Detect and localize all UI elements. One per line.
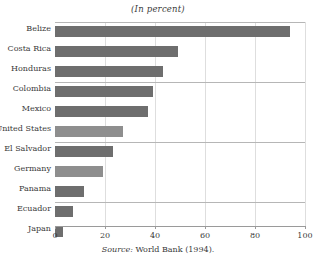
tick-mark-20: [105, 226, 106, 229]
bar-ecuador: [55, 206, 73, 217]
bar-united-states: [55, 126, 123, 137]
bar-el-salvador: [55, 146, 113, 157]
tick-label-80: 80: [250, 231, 260, 240]
tick-mark-60: [205, 226, 206, 229]
bar-row: Belize: [55, 22, 305, 42]
tick-label-0: 0: [52, 231, 57, 240]
bar-germany: [55, 166, 103, 177]
bar-row: Ecuador: [55, 202, 305, 222]
tick-label-100: 100: [297, 231, 312, 240]
bar-colombia: [55, 86, 153, 97]
category-label-honduras: Honduras: [11, 64, 51, 73]
tick-label-40: 40: [150, 231, 160, 240]
source-note: Source: World Bank (1994).: [0, 245, 316, 254]
bar-row: El Salvador: [55, 142, 305, 162]
plot-area: BelizeCosta RicaHondurasColombiaMexicoUn…: [55, 22, 305, 226]
bar-row: Germany: [55, 162, 305, 182]
chart-title: (In percent): [0, 4, 316, 14]
x-axis-line: [55, 226, 305, 227]
category-label-belize: Belize: [26, 24, 51, 33]
category-label-germany: Germany: [14, 164, 51, 173]
bar-row: Honduras: [55, 62, 305, 82]
tick-mark-80: [255, 226, 256, 229]
bar-row: Mexico: [55, 102, 305, 122]
category-label-united-states: United States: [0, 124, 51, 133]
tick-mark-40: [155, 226, 156, 229]
bar-costa-rica: [55, 46, 178, 57]
category-label-japan: Japan: [28, 224, 51, 233]
category-label-costa-rica: Costa Rica: [8, 44, 51, 53]
bar-honduras: [55, 66, 163, 77]
chart-figure: (In percent) BelizeCosta RicaHondurasCol…: [0, 0, 316, 262]
tick-label-60: 60: [200, 231, 210, 240]
gridline-100: [305, 22, 306, 226]
bar-row: Colombia: [55, 82, 305, 102]
category-label-mexico: Mexico: [22, 104, 51, 113]
bar-row: Panama: [55, 182, 305, 202]
bar-row: Costa Rica: [55, 42, 305, 62]
tick-mark-100: [305, 226, 306, 229]
category-label-el-salvador: El Salvador: [4, 144, 51, 153]
source-text: World Bank (1994).: [133, 245, 214, 254]
source-prefix: Source:: [102, 245, 133, 254]
bar-row: United States: [55, 122, 305, 142]
category-label-ecuador: Ecuador: [17, 204, 51, 213]
tick-label-20: 20: [100, 231, 110, 240]
bar-panama: [55, 186, 84, 197]
bar-belize: [55, 26, 290, 37]
tick-mark-0: [55, 226, 56, 229]
category-label-panama: Panama: [19, 184, 51, 193]
category-label-colombia: Colombia: [13, 84, 51, 93]
bar-mexico: [55, 106, 148, 117]
bar-row: Japan: [55, 222, 305, 242]
